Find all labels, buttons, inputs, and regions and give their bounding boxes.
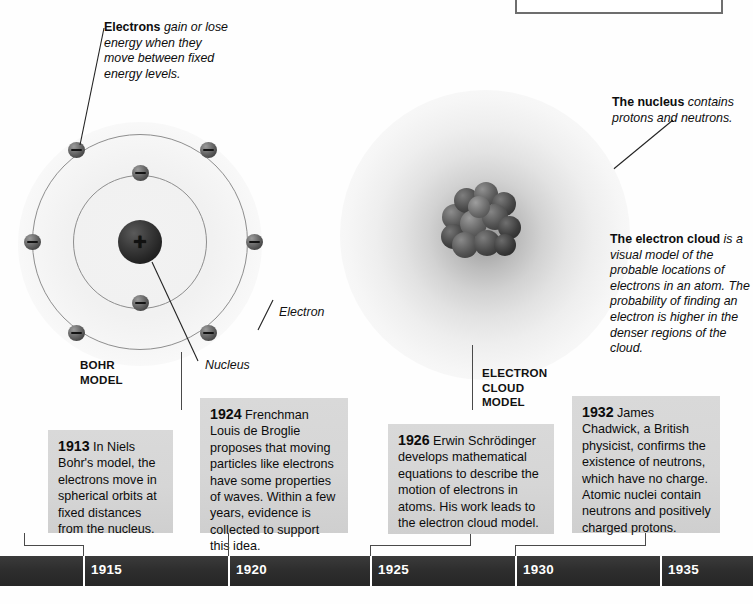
connector-1926-b [370, 545, 471, 546]
timeline-year-label: 1920 [236, 562, 267, 577]
timeline-event-1913: 1913 In Niels Bohr's model, the electron… [48, 430, 173, 533]
nucleon-cluster [440, 182, 522, 260]
event-text: Frenchman Louis de Broglie proposes that… [210, 408, 335, 553]
connector-1913-a [24, 533, 25, 545]
callout-bold-term: The electron cloud [610, 232, 720, 246]
timeline-year-label: 1935 [668, 562, 699, 577]
bohr-label-rule [181, 352, 182, 410]
timeline-tick-1930 [515, 556, 517, 586]
electrons-energy-callout: Electrons gain or lose energy when they … [104, 20, 229, 82]
timeline-year-label: 1925 [378, 562, 409, 577]
nucleon [494, 234, 516, 256]
timeline-tick-1925 [370, 556, 372, 586]
connector-1924 [228, 533, 229, 557]
electron-cloud-illustration [340, 90, 630, 380]
electron [132, 295, 149, 311]
timeline-year-label: 1930 [523, 562, 554, 577]
callout-bold-term: Electrons [104, 20, 160, 34]
nucleus-callout: The nucleus contains protons and neutron… [612, 95, 744, 126]
electron [246, 234, 263, 250]
timeline-tick-1915 [83, 556, 85, 586]
electron-label: Electron [279, 305, 324, 320]
event-year: 1913 [58, 438, 90, 454]
connector-1913-b [24, 545, 84, 546]
connector-1932-a [645, 533, 646, 545]
callout-bold-term: The nucleus [612, 95, 684, 109]
timeline-bar: 1915 1920 1925 1930 1935 [0, 556, 753, 586]
bohr-model-illustration [10, 118, 270, 368]
timeline-tick-1920 [228, 556, 230, 586]
event-text: Erwin Schrödinger develops mathematical … [398, 434, 539, 530]
bohr-model-label: BOHR MODEL [80, 358, 175, 387]
timeline-event-1926: 1926 Erwin Schrödinger develops mathemat… [388, 424, 554, 534]
atomic-models-diagram: Electrons gain or lose energy when they … [0, 0, 753, 604]
electron [68, 142, 85, 158]
nucleus-label: Nucleus [205, 358, 250, 373]
top-right-frame [515, 0, 723, 14]
event-year: 1926 [398, 432, 430, 448]
connector-1932-b [515, 545, 646, 546]
electron [24, 234, 41, 250]
electron-cloud-label-rule [472, 345, 473, 410]
electron [68, 325, 85, 341]
electron [200, 142, 217, 158]
bohr-nucleus [118, 220, 162, 264]
event-text: In Niels Bohr's model, the electrons mov… [58, 440, 157, 536]
bohr-model-label-line2: MODEL [80, 373, 175, 388]
event-year: 1932 [582, 404, 614, 420]
bohr-model-label-line1: BOHR [80, 358, 175, 373]
connector-1926-a [470, 534, 471, 545]
electron-cloud-callout: The electron cloud is a visual model of … [610, 232, 750, 357]
electron [132, 165, 149, 181]
electron-cloud-label-line1: ELECTRON [482, 366, 587, 381]
electron-cloud-label-line2: CLOUD [482, 381, 587, 396]
timeline-event-1932: 1932 James Chadwick, a British physicist… [572, 396, 720, 533]
event-text: James Chadwick, a British physicist, con… [582, 406, 711, 535]
event-year: 1924 [210, 406, 242, 422]
timeline-year-label: 1915 [91, 562, 122, 577]
timeline-event-1924: 1924 Frenchman Louis de Broglie proposes… [200, 398, 348, 533]
nucleon [468, 196, 490, 218]
callout-body: is a visual model of the probable locati… [610, 232, 750, 355]
electron [200, 325, 217, 341]
timeline-tick-1935 [660, 556, 662, 586]
